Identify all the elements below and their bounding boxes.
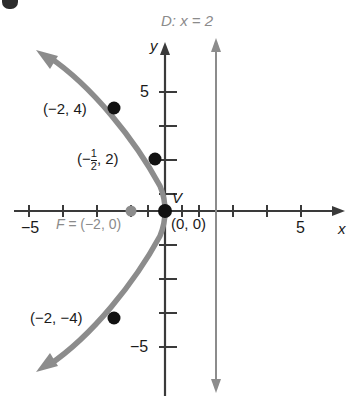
vertex-label: V	[172, 190, 182, 205]
x-tick-label-neg5: −5	[21, 220, 39, 236]
x-axis-label: x	[338, 221, 346, 236]
y-axis-label: y	[150, 38, 158, 53]
point-label-rest: , 2)	[97, 150, 119, 167]
point-label-neg2-neg4: (−2, −4)	[30, 310, 83, 325]
y-tick-label-5: 5	[140, 84, 149, 100]
point-neg2-neg4	[108, 312, 121, 325]
point-vertex-origin	[158, 204, 172, 218]
fraction-denominator: 2	[91, 160, 97, 173]
fraction-numerator: 1	[91, 148, 97, 160]
focus-label: F = (−2, 0)	[56, 217, 121, 231]
point-label-neg2-4: (−2, 4)	[43, 101, 87, 116]
y-tick-label-neg5: −5	[130, 339, 148, 355]
directrix-line	[211, 38, 221, 393]
focus-label-value: (−2, 0)	[80, 216, 121, 232]
point-neghalf-2	[149, 153, 162, 166]
point-neg2-4	[108, 102, 121, 115]
fraction-one-half: 12	[91, 148, 97, 172]
point-label-neghalf-2: (−12, 2)	[77, 148, 119, 172]
focus-label-prefix: F =	[56, 216, 80, 232]
minus-sign: −	[82, 150, 91, 167]
point-focus	[126, 206, 137, 217]
directrix-label: D: x = 2	[161, 13, 213, 28]
x-tick-label-5: 5	[296, 220, 305, 236]
origin-label: (0, 0)	[171, 216, 206, 231]
